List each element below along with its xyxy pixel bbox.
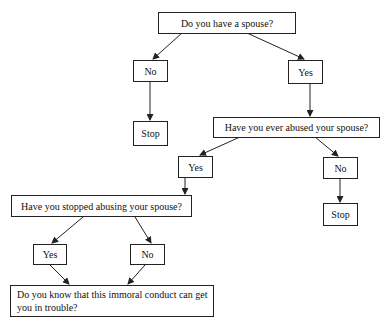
edge-q3-yes [52, 217, 83, 243]
stop-no-spouse: Stop [133, 121, 168, 146]
question-immoral-conduct: Do you know that this immoral conduct ca… [10, 285, 214, 317]
answer-yes-spouse: Yes [288, 60, 323, 84]
answer-no-stopped: No [130, 244, 165, 265]
edge-q1-yes [247, 33, 304, 59]
stop-not-abused: Stop [323, 203, 358, 226]
question-have-spouse: Do you have a spouse? [158, 12, 296, 34]
edge-q3no-q4 [128, 265, 145, 284]
edge-q3yes-q4 [50, 265, 69, 284]
edge-q1-no [153, 33, 182, 59]
answer-yes-abused: Yes [178, 156, 213, 178]
answer-no-abused: No [323, 157, 358, 179]
edge-q3-no [135, 217, 151, 243]
answer-yes-stopped: Yes [33, 244, 67, 265]
edge-q2-no [315, 137, 338, 156]
edge-q2-yes [200, 137, 240, 155]
flowchart: Do you have a spouse? No Stop Yes Have y… [0, 0, 389, 325]
answer-no-spouse: No [133, 60, 168, 82]
question-ever-abused: Have you ever abused your spouse? [213, 117, 380, 138]
question-stopped-abusing: Have you stopped abusing your spouse? [11, 195, 192, 217]
